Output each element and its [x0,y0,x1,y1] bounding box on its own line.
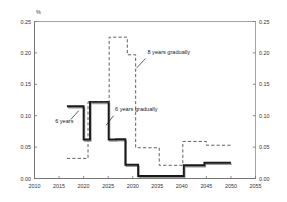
annot-eight-years-gradually-label: 8 years gradually [147,49,190,55]
annot-six-years-label: 6 years [55,118,74,124]
y-left-tick-label: 0.05 [21,144,32,150]
annotation-layer: 6 years6 years gradually8 years graduall… [55,49,190,125]
plot-border [35,22,256,179]
unit-label: % [36,9,41,15]
y-left-tick-label: 0.00 [21,176,32,182]
y-left-tick-label: 0.20 [21,50,32,56]
y-right-tick-label: 0.25 [259,19,270,25]
annot-six-years-gradually-label: 6 years gradually [115,106,158,112]
x-tick-label: 2015 [53,183,65,189]
chart-container: 2010201520202025203020352040204520502055… [0,0,287,202]
x-tick-label: 2020 [78,183,90,189]
line-chart: 2010201520202025203020352040204520502055… [0,0,287,202]
y-right-tick-label: 0.10 [259,113,270,119]
x-tick-label: 2055 [250,183,262,189]
y-left-tick-label: 0.10 [21,113,32,119]
x-tick-label: 2025 [102,183,114,189]
x-tick-label: 2010 [29,183,41,189]
x-tick-label: 2045 [200,183,212,189]
y-right-tick-label: 0.15 [259,81,270,87]
x-tick-label: 2035 [151,183,163,189]
plot-axes [35,22,256,179]
y-left-tick-label: 0.25 [21,19,32,25]
x-tick-label: 2040 [176,183,188,189]
y-left-tick-label: 0.15 [21,81,32,87]
plot-frame [35,22,256,179]
series-line-shadow [68,103,232,177]
y-right-tick-label: 0.00 [259,176,270,182]
x-tick-label: 2050 [225,183,237,189]
annot-eight-years-gradually-leader [137,59,146,68]
y-right-tick-label: 0.20 [259,50,270,56]
y-right-tick-label: 0.05 [259,144,270,150]
x-tick-label: 2030 [127,183,139,189]
